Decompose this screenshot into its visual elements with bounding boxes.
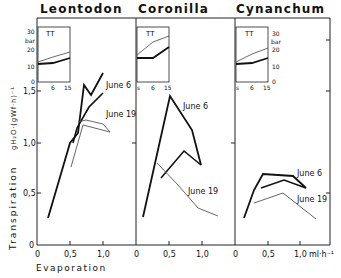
- svg-text:30: 30: [272, 30, 280, 37]
- y-tick-1-0: 1,0: [23, 139, 36, 148]
- y-tick-0-5: 0,5: [23, 189, 36, 198]
- x-tick-10-p3: 1,0: [294, 250, 307, 259]
- x-tick-05-p3: 0,5: [262, 250, 275, 259]
- y-axis-unit: gH₂O·(gWf·h)⁻¹: [10, 86, 18, 150]
- inset-coronilla: TT s 6 15: [137, 27, 172, 91]
- label-june6-p2: June 6: [182, 102, 208, 111]
- x-tick-0-p2: 0: [134, 250, 139, 259]
- x-axis-unit: ml·h⁻¹: [309, 250, 334, 259]
- y-tick-1-5: 1,5: [23, 87, 36, 96]
- svg-text:0: 0: [31, 78, 35, 85]
- x-tick-05-p2: 0,5: [163, 250, 176, 259]
- svg-text:6: 6: [51, 84, 55, 91]
- svg-text:10: 10: [272, 63, 280, 70]
- x-tick-10-p1: 1,0: [97, 250, 110, 259]
- x-tick-0-p1: 0: [35, 250, 40, 259]
- svg-text:20: 20: [27, 46, 35, 53]
- series-leontodon: [48, 73, 110, 218]
- svg-text:20: 20: [272, 46, 280, 53]
- label-june19-p2: June 19: [187, 187, 218, 196]
- x-ticks: [70, 241, 300, 245]
- svg-text:s: s: [137, 84, 140, 91]
- x-tick-05-p1: 0,5: [64, 250, 77, 259]
- figure: Leontodon Coronilla Cynanchum 1,5 1,0 0,…: [0, 0, 341, 278]
- svg-text:TT: TT: [145, 30, 155, 38]
- panel-title-cynanchum: Cynanchum: [236, 2, 325, 16]
- x-tick-10-p2: 1,0: [196, 250, 209, 259]
- svg-text:30: 30: [27, 28, 35, 35]
- svg-text:0: 0: [272, 78, 276, 85]
- svg-text:15: 15: [164, 84, 172, 91]
- svg-text:TT: TT: [45, 30, 55, 38]
- panel-title-leontodon: Leontodon: [40, 2, 123, 16]
- panel-title-coronilla: Coronilla: [138, 2, 209, 16]
- x-tick-0-p3: 0: [233, 250, 238, 259]
- label-june6-p3: June 6: [296, 169, 322, 178]
- svg-text:6: 6: [151, 84, 155, 91]
- y-tick-0: 0: [29, 241, 34, 250]
- svg-text:bar: bar: [25, 37, 35, 44]
- svg-text:15: 15: [64, 84, 72, 91]
- svg-text:bar: bar: [271, 38, 281, 45]
- svg-text:10: 10: [27, 63, 35, 70]
- svg-text:TT: TT: [244, 30, 254, 38]
- label-june19-p1: June 19: [105, 110, 136, 119]
- svg-text:s: s: [236, 84, 239, 91]
- inset-leontodon: TT 30 bar 20 10 0 6 15: [25, 27, 72, 91]
- series-coronilla: [143, 96, 218, 217]
- inset-cynanchum: TT 30 bar 20 10 0 s 6 15: [236, 27, 281, 91]
- x-axis-label: Evaporation: [36, 263, 107, 273]
- y-axis-label: Transpiration: [8, 166, 18, 251]
- svg-text:6: 6: [250, 84, 254, 91]
- label-june6-p1: June 6: [105, 81, 131, 90]
- label-june19-p3: June 19: [296, 195, 327, 204]
- svg-text:15: 15: [263, 84, 271, 91]
